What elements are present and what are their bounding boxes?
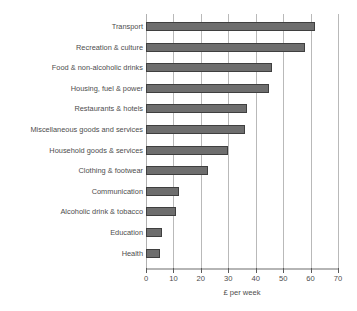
- category-label: Recreation & culture: [0, 43, 143, 52]
- bar-row: [146, 146, 338, 155]
- bar-row: [146, 187, 338, 196]
- bar-row: [146, 22, 338, 31]
- bar: [146, 249, 160, 258]
- tick-mark-10: [173, 268, 174, 273]
- tick-mark-60: [311, 268, 312, 273]
- bar-row: [146, 84, 338, 93]
- x-axis-line: [146, 268, 338, 270]
- plot-area: [146, 14, 338, 268]
- bar-row: [146, 249, 338, 258]
- tick-mark-50: [283, 268, 284, 273]
- category-label: Food & non-alcoholic drinks: [0, 63, 143, 72]
- category-label: Health: [0, 249, 143, 258]
- x-axis-title: £ per week: [146, 288, 338, 297]
- tick-label-70: 70: [326, 274, 350, 284]
- tick-label-0: 0: [134, 274, 158, 284]
- category-label: Restaurants & hotels: [0, 104, 143, 113]
- bar: [146, 228, 162, 237]
- category-label: Communication: [0, 187, 143, 196]
- category-label: Miscellaneous goods and services: [0, 125, 143, 134]
- tick-mark-30: [228, 268, 229, 273]
- bar-row: [146, 207, 338, 216]
- gridline-70: [338, 14, 339, 268]
- category-axis-labels: TransportRecreation & cultureFood & non-…: [0, 14, 143, 268]
- category-label: Household goods & services: [0, 146, 143, 155]
- bar-row: [146, 228, 338, 237]
- bar: [146, 63, 272, 72]
- bar: [146, 43, 305, 52]
- tick-mark-40: [256, 268, 257, 273]
- bar-row: [146, 125, 338, 134]
- tick-label-40: 40: [244, 274, 268, 284]
- bar-row: [146, 104, 338, 113]
- bar: [146, 146, 228, 155]
- tick-label-60: 60: [299, 274, 323, 284]
- bar: [146, 22, 315, 31]
- category-label: Education: [0, 228, 143, 237]
- category-label: Alcoholic drink & tobacco: [0, 207, 143, 216]
- bar-row: [146, 43, 338, 52]
- category-label: Transport: [0, 22, 143, 31]
- tick-label-50: 50: [271, 274, 295, 284]
- bar: [146, 187, 179, 196]
- tick-label-20: 20: [189, 274, 213, 284]
- category-label: Housing, fuel & power: [0, 84, 143, 93]
- bar: [146, 104, 247, 113]
- tick-mark-0: [146, 268, 147, 273]
- bar-series: [146, 14, 338, 268]
- bar: [146, 125, 245, 134]
- bar: [146, 207, 176, 216]
- bar-chart: TransportRecreation & cultureFood & non-…: [0, 0, 357, 311]
- bar-row: [146, 166, 338, 175]
- tick-mark-70: [338, 268, 339, 273]
- bar: [146, 84, 269, 93]
- bar-row: [146, 63, 338, 72]
- tick-label-10: 10: [161, 274, 185, 284]
- category-label: Clothing & footwear: [0, 166, 143, 175]
- tick-label-30: 30: [216, 274, 240, 284]
- bar: [146, 166, 208, 175]
- tick-mark-20: [201, 268, 202, 273]
